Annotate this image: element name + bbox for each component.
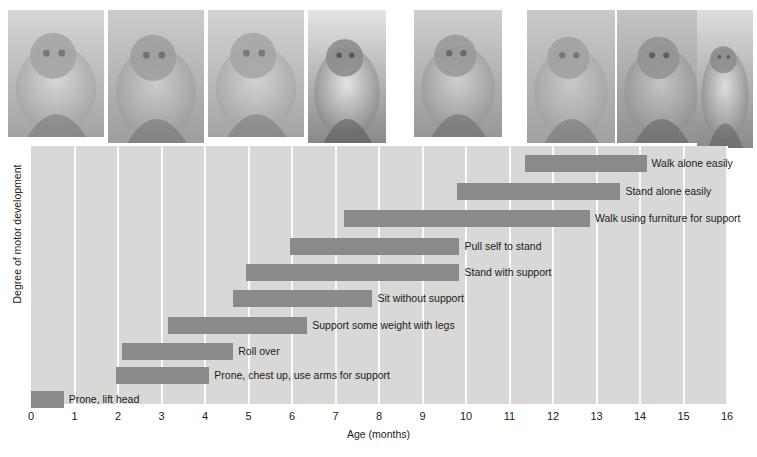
x-tick-3: 3 [158, 410, 164, 422]
x-tick-5: 5 [245, 410, 251, 422]
y-axis-title: Degree of motor development [11, 139, 23, 329]
x-tick-2: 2 [115, 410, 121, 422]
bar-walk-using-furniture-for-support [344, 210, 590, 227]
x-tick-8: 8 [376, 410, 382, 422]
bar-label-3: Pull self to stand [464, 238, 541, 255]
photo-support-weight-legs [208, 10, 304, 137]
bar-roll-over [122, 343, 233, 360]
gridline-month-2 [117, 146, 119, 404]
photo-sit-without-support [308, 10, 386, 143]
bar-label-4: Stand with support [464, 264, 551, 281]
bar-prone-chest-up-use-arms-for-support [116, 367, 210, 384]
x-tick-6: 6 [289, 410, 295, 422]
bar-stand-with-support [246, 264, 459, 281]
photo-strip [0, 0, 757, 144]
x-tick-7: 7 [332, 410, 338, 422]
x-tick-14: 14 [634, 410, 646, 422]
x-tick-0: 0 [28, 410, 34, 422]
x-axis: 012345678910111213141516 [0, 404, 757, 428]
bar-label-7: Roll over [238, 343, 279, 360]
bar-label-0: Walk alone easily [652, 155, 733, 172]
bar-label-8: Prone, chest up, use arms for support [214, 367, 390, 384]
bar-label-5: Sit without support [377, 290, 463, 307]
photo-roll-over [108, 10, 204, 143]
x-tick-15: 15 [677, 410, 689, 422]
gridline-month-3 [161, 146, 163, 404]
photo-walk-alone [697, 10, 753, 148]
x-tick-1: 1 [71, 410, 77, 422]
bar-label-2: Walk using furniture for support [595, 210, 741, 227]
bar-pull-self-to-stand [290, 238, 460, 255]
bar-label-1: Stand alone easily [625, 183, 711, 200]
gridline-month-16 [726, 146, 728, 404]
x-tick-4: 4 [202, 410, 208, 422]
x-tick-11: 11 [504, 410, 515, 422]
photo-prone-lift-head [8, 10, 104, 137]
bar-label-6: Support some weight with legs [312, 317, 454, 334]
photo-stand-with-support [527, 10, 615, 143]
x-tick-16: 16 [721, 410, 733, 422]
gridline-month-1 [74, 146, 76, 404]
photo-walk-with-help [617, 10, 705, 143]
x-axis-title: Age (months) [0, 428, 757, 440]
bar-support-some-weight-with-legs [168, 317, 307, 334]
bar-stand-alone-easily [457, 183, 620, 200]
x-tick-9: 9 [419, 410, 425, 422]
photo-pull-self-to-stand [414, 10, 502, 137]
bar-walk-alone-easily [525, 155, 647, 172]
x-tick-12: 12 [547, 410, 559, 422]
x-tick-13: 13 [590, 410, 602, 422]
chart-plot-area: Walk alone easilyStand alone easilyWalk … [31, 146, 727, 404]
gridline-month-4 [204, 146, 206, 404]
bar-sit-without-support [233, 290, 372, 307]
x-tick-10: 10 [460, 410, 472, 422]
